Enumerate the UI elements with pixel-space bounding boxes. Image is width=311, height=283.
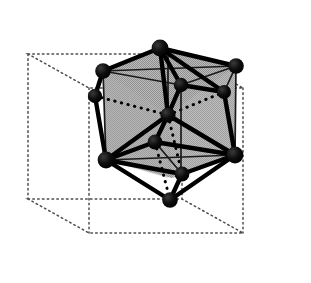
atom-corner-upper-right [228, 58, 244, 74]
atom-apex-top [152, 40, 169, 57]
atom-corner-lower-right [227, 147, 244, 164]
crystal-structure-figure [0, 0, 311, 283]
atom-interior-upper [174, 78, 188, 92]
atom-corner-lower-left [98, 152, 115, 169]
atom-interior-right [217, 85, 231, 99]
thin-edge-right [235, 66, 236, 155]
atom-corner-upper-left [95, 63, 111, 79]
figure-container: Polyhedral cluster inscribed in a cubic … [0, 0, 311, 283]
atom-satellite-left [88, 89, 102, 103]
atom-interior-lower [148, 135, 163, 150]
atom-front-lower [175, 167, 190, 182]
atom-apex-bottom [162, 192, 178, 208]
atom-center [160, 107, 175, 122]
